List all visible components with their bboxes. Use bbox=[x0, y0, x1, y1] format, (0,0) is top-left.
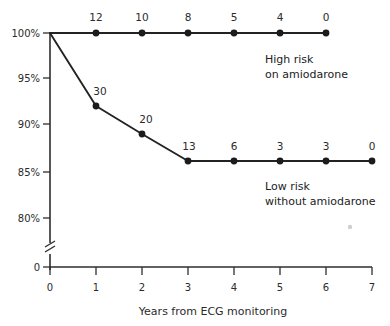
y-tick-label-100: 100% bbox=[11, 28, 40, 39]
at-risk-count: 8 bbox=[185, 11, 192, 23]
y-tick-label-90: 90% bbox=[18, 119, 40, 130]
y-tick-label-80: 80% bbox=[18, 213, 40, 224]
series-low-risk-marker bbox=[369, 158, 376, 165]
series-high-risk-marker bbox=[277, 30, 284, 37]
series-high-risk-marker bbox=[185, 30, 192, 37]
x-tick-label-5: 5 bbox=[277, 282, 283, 293]
series-high-risk-marker bbox=[139, 30, 146, 37]
at-risk-count: 30 bbox=[93, 85, 106, 97]
annotation-low-risk-line1: Low risk bbox=[265, 180, 310, 193]
y-tick-label-85: 85% bbox=[18, 167, 40, 178]
scan-artifact-speck bbox=[348, 225, 352, 229]
x-tick-label-1: 1 bbox=[93, 282, 99, 293]
x-tick-label-6: 6 bbox=[323, 282, 329, 293]
y-tick-label-95: 95% bbox=[18, 73, 40, 84]
series-low-risk-marker bbox=[93, 103, 100, 110]
at-risk-count: 13 bbox=[182, 140, 195, 152]
y-tick-labels: 100% 95% 90% 85% 80% 0 bbox=[11, 28, 40, 273]
annotation-high-risk-line1: High risk bbox=[265, 53, 314, 66]
at-risk-count: 4 bbox=[277, 11, 284, 23]
series-high-risk-marker bbox=[231, 30, 238, 37]
at-risk-count: 5 bbox=[231, 11, 238, 23]
annotation-high-risk: High risk on amiodarone bbox=[265, 53, 348, 81]
series-high-risk-marker bbox=[93, 30, 100, 37]
at-risk-count: 3 bbox=[277, 140, 284, 152]
survival-curve-figure: 100% 95% 90% 85% 80% 0 0 1 2 3 4 5 6 7 bbox=[0, 0, 390, 326]
x-tick-label-3: 3 bbox=[185, 282, 191, 293]
series-high-risk-on-amiodarone bbox=[50, 30, 329, 37]
x-tick-label-2: 2 bbox=[139, 282, 145, 293]
x-tick-label-7: 7 bbox=[369, 282, 375, 293]
at-risk-counts-high-risk: 12 10 8 5 4 0 bbox=[89, 11, 329, 23]
series-low-risk-marker bbox=[323, 158, 330, 165]
x-tick-label-0: 0 bbox=[47, 282, 53, 293]
at-risk-count: 0 bbox=[323, 11, 330, 23]
x-tick-label-4: 4 bbox=[231, 282, 237, 293]
at-risk-counts-low-risk: 30 20 13 6 3 3 0 bbox=[93, 85, 375, 152]
chart-svg: 100% 95% 90% 85% 80% 0 0 1 2 3 4 5 6 7 bbox=[0, 0, 390, 326]
annotation-low-risk-line2: without amiodarone bbox=[265, 195, 376, 208]
at-risk-count: 12 bbox=[89, 11, 102, 23]
annotation-high-risk-line2: on amiodarone bbox=[265, 68, 348, 81]
series-low-risk-marker bbox=[231, 158, 238, 165]
x-tick-labels: 0 1 2 3 4 5 6 7 bbox=[47, 282, 375, 293]
annotation-low-risk: Low risk without amiodarone bbox=[265, 180, 376, 208]
at-risk-count: 10 bbox=[135, 11, 148, 23]
y-tick-label-0: 0 bbox=[34, 262, 40, 273]
at-risk-count: 3 bbox=[323, 140, 330, 152]
at-risk-count: 0 bbox=[369, 140, 376, 152]
at-risk-count: 20 bbox=[139, 113, 152, 125]
series-low-risk-marker bbox=[277, 158, 284, 165]
x-axis-title: Years from ECG monitoring bbox=[138, 305, 287, 318]
at-risk-count: 6 bbox=[231, 140, 238, 152]
series-high-risk-marker bbox=[323, 30, 330, 37]
series-low-risk-marker bbox=[185, 158, 192, 165]
series-low-risk-marker bbox=[139, 131, 146, 138]
